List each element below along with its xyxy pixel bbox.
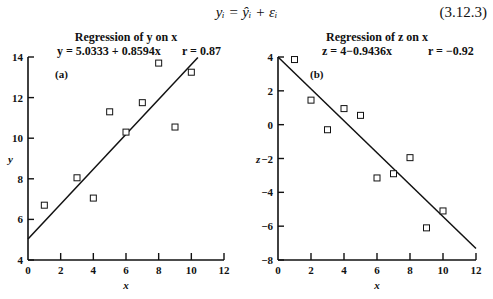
data-point xyxy=(90,195,96,201)
y-tick-label: 4 xyxy=(18,254,24,266)
data-point xyxy=(74,175,80,181)
y-tick-label: 6 xyxy=(18,213,24,225)
x-tick-label: 10 xyxy=(186,264,198,276)
x-tick-label: 6 xyxy=(374,264,380,276)
x-tick-label: 2 xyxy=(58,264,64,276)
data-point xyxy=(440,208,446,214)
x-tick-label: 2 xyxy=(308,264,314,276)
chart-a-x-label: x xyxy=(122,279,129,291)
y-tick-label: 0 xyxy=(268,119,274,131)
x-tick-label: 8 xyxy=(407,264,413,276)
y-tick-label: −8 xyxy=(261,254,273,266)
chart-b-panel-label: (b) xyxy=(310,68,324,81)
data-point xyxy=(139,100,145,106)
data-point xyxy=(188,69,194,75)
x-tick-label: 12 xyxy=(471,264,483,276)
plot-canvas: 468101214024681012xy(a)−8−6−4−2024024681… xyxy=(0,0,493,299)
x-tick-label: 6 xyxy=(123,264,129,276)
data-point xyxy=(358,112,364,118)
chart-a-regression-line xyxy=(28,58,198,239)
y-tick-label: 4 xyxy=(268,51,274,63)
data-point xyxy=(325,127,331,133)
data-point xyxy=(292,57,298,63)
data-point xyxy=(172,124,178,130)
y-tick-label: −2 xyxy=(261,153,273,165)
data-point xyxy=(424,225,430,231)
y-tick-label: 2 xyxy=(268,85,274,97)
data-point xyxy=(391,171,397,177)
y-tick-label: 14 xyxy=(12,51,24,63)
data-point xyxy=(308,97,314,103)
chart-b-y-label: z xyxy=(255,153,261,165)
chart-a-y-label: y xyxy=(6,153,13,165)
chart-a-panel-label: (a) xyxy=(55,68,68,81)
y-tick-label: −4 xyxy=(261,186,273,198)
y-tick-label: 10 xyxy=(12,132,24,144)
chart-b-x-label: x xyxy=(373,279,380,291)
x-tick-label: 4 xyxy=(341,264,347,276)
data-point xyxy=(123,129,129,135)
x-tick-label: 0 xyxy=(25,264,31,276)
x-tick-label: 10 xyxy=(438,264,450,276)
x-tick-label: 8 xyxy=(156,264,162,276)
data-point xyxy=(107,109,113,115)
data-point xyxy=(41,202,47,208)
y-tick-label: 8 xyxy=(18,173,24,185)
y-tick-label: 12 xyxy=(12,92,24,104)
data-point xyxy=(341,106,347,112)
data-point xyxy=(374,175,380,181)
data-point xyxy=(156,60,162,66)
x-tick-label: 0 xyxy=(275,264,281,276)
chart-b-regression-line xyxy=(278,57,476,249)
x-tick-label: 4 xyxy=(91,264,97,276)
data-point xyxy=(407,155,413,161)
y-tick-label: −6 xyxy=(261,220,273,232)
x-tick-label: 12 xyxy=(219,264,231,276)
